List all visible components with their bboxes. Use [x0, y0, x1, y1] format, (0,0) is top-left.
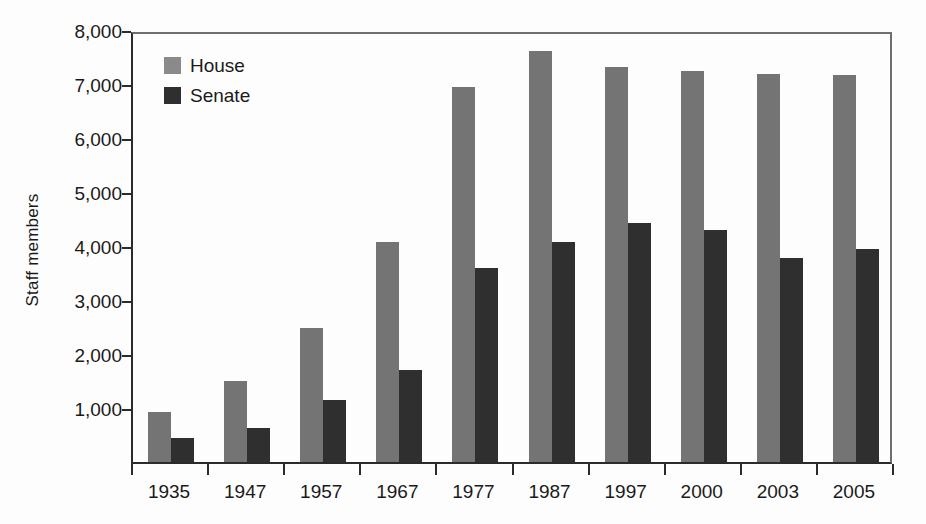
bar-house-1935 [148, 412, 171, 462]
bar-house-1957 [300, 328, 323, 462]
y-axis-tick-label: 1,000 [50, 400, 122, 419]
bar-group [361, 34, 437, 462]
y-axis-tick-mark [122, 355, 131, 357]
legend-label: House [190, 56, 245, 75]
bar-senate-1947 [247, 428, 270, 462]
bar-senate-1987 [552, 242, 575, 462]
bar-senate-1935 [171, 438, 194, 462]
y-axis-tick-mark [122, 193, 131, 195]
legend-item-house: House [164, 50, 334, 80]
x-axis-tick-labels: 1935194719571967197719871997200020032005 [131, 480, 892, 510]
bar-senate-2000 [704, 230, 727, 462]
x-axis-tick-mark [359, 464, 361, 475]
x-axis-tick-mark [588, 464, 590, 475]
x-axis-tick-label: 2005 [809, 480, 899, 504]
bar-group [590, 34, 666, 462]
bar-house-2000 [681, 71, 704, 463]
y-axis-tick-labels: 8,0007,0006,0005,0004,0003,0002,0001,000 [42, 0, 122, 524]
x-axis-tick-mark [131, 464, 133, 475]
y-axis-tick-mark [122, 247, 131, 249]
bar-senate-2005 [856, 249, 879, 462]
x-axis-tick-mark [512, 464, 514, 475]
bar-senate-1957 [323, 400, 346, 462]
bar-house-1987 [529, 51, 552, 462]
y-axis-tick-label: 4,000 [50, 238, 122, 257]
y-axis-tick-mark [122, 409, 131, 411]
bar-house-2003 [757, 74, 780, 462]
bar-group [514, 34, 590, 462]
chart-legend: HouseSenate [164, 50, 334, 110]
y-axis-tick-mark [122, 85, 131, 87]
bar-senate-1967 [399, 370, 422, 462]
bar-house-1977 [452, 87, 475, 462]
y-axis-tick-mark [122, 139, 131, 141]
x-axis-tick-mark [664, 464, 666, 475]
y-axis-tick-mark [122, 301, 131, 303]
x-axis-tick-mark [435, 464, 437, 475]
y-axis-tick-label: 2,000 [50, 346, 122, 365]
bar-house-1967 [376, 242, 399, 462]
y-axis-tick-label: 6,000 [50, 130, 122, 149]
bar-group [437, 34, 513, 462]
y-axis-tick-mark [122, 31, 131, 33]
senate-swatch [164, 87, 181, 104]
bar-senate-1997 [628, 223, 651, 462]
x-axis-tick-mark [283, 464, 285, 475]
bar-chart: Staff members 8,0007,0006,0005,0004,0003… [0, 0, 926, 524]
y-axis-tick-label: 5,000 [50, 184, 122, 203]
house-swatch [164, 57, 181, 74]
bar-group [742, 34, 818, 462]
legend-label: Senate [190, 86, 250, 105]
bar-group [818, 34, 894, 462]
x-axis-tick-marks [131, 464, 892, 476]
bar-house-2005 [833, 75, 856, 462]
legend-item-senate: Senate [164, 80, 334, 110]
bar-senate-1977 [475, 268, 498, 462]
x-axis-tick-mark [207, 464, 209, 475]
bar-house-1997 [605, 67, 628, 462]
y-axis-tick-label: 8,000 [50, 22, 122, 41]
bar-senate-2003 [780, 258, 803, 462]
bar-group [666, 34, 742, 462]
y-axis-tick-label: 3,000 [50, 292, 122, 311]
x-axis-tick-mark [740, 464, 742, 475]
x-axis-tick-mark [892, 464, 894, 475]
x-axis-tick-mark [816, 464, 818, 475]
bar-house-1947 [224, 381, 247, 462]
y-axis-tick-label: 7,000 [50, 76, 122, 95]
